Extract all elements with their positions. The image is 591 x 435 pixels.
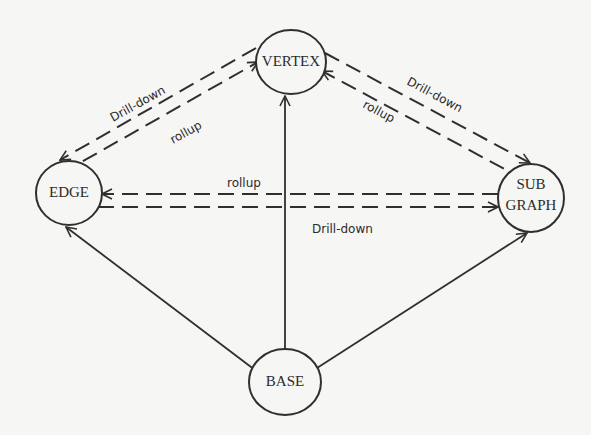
edge-to-vertex-rollup-arrow (62, 62, 258, 173)
vertex-to-subgraph-drilldown-arrow (325, 53, 530, 163)
vertex-to-edge-drilldown-arrow (60, 48, 256, 160)
node-edge-label: EDGE (49, 184, 89, 200)
node-vertex-label: VERTEX (262, 53, 320, 69)
label-vertex-subgraph-rollup: rollup (361, 97, 398, 125)
label-vertex-subgraph-drilldown: Drill-down (405, 74, 465, 115)
label-vertex-edge-rollup: rollup (168, 118, 204, 147)
node-base: BASE (249, 349, 321, 415)
node-vertex: VERTEX (256, 30, 326, 94)
node-base-label: BASE (266, 373, 304, 389)
label-edge-subgraph-rollup: rollup (227, 176, 261, 190)
solid-edges (66, 96, 527, 370)
node-subgraph: SUB GRAPH (498, 164, 564, 232)
base-to-edge-arrow (66, 227, 255, 370)
node-edge: EDGE (36, 161, 102, 225)
node-subgraph-label-line2: GRAPH (506, 197, 557, 213)
label-edge-subgraph-drilldown: Drill-down (312, 222, 373, 236)
olap-graph-lattice-diagram: VERTEX EDGE SUB GRAPH BASE Drill-down ro… (0, 0, 591, 435)
node-subgraph-label-line1: SUB (516, 176, 545, 192)
base-to-subgraph-arrow (317, 233, 527, 368)
